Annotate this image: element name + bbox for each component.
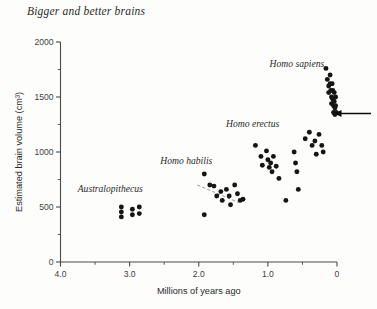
data-point [227, 194, 232, 199]
y-tick-label: 1000 [34, 147, 53, 157]
data-point [310, 143, 315, 148]
data-point [232, 183, 237, 188]
pointer-arrow-layer [334, 110, 371, 117]
data-point [293, 161, 298, 166]
data-point [312, 139, 317, 144]
habilis-trend-line [197, 185, 238, 203]
data-point [253, 143, 258, 148]
x-tick-label: 0 [335, 269, 340, 279]
y-axis-title: Estimated brain volume (cm³) [14, 92, 24, 212]
data-point [241, 197, 246, 202]
species-label-homo-habilis: Homo habilis [159, 155, 212, 166]
data-point [202, 212, 207, 217]
data-point [292, 150, 297, 155]
species-label-homo-sapiens: Homo sapiens [269, 58, 325, 69]
x-axis-title: Millions of years ago [157, 286, 241, 296]
figure-container: Bigger and better brains 050010001500200… [0, 0, 377, 309]
data-point [330, 81, 335, 86]
data-point [212, 184, 217, 189]
data-point [224, 187, 229, 192]
data-point [271, 154, 276, 159]
data-point [267, 165, 272, 170]
data-point [119, 205, 124, 210]
data-point [276, 176, 281, 181]
data-point [119, 214, 124, 219]
species-label-australopithecus: Australopithecus [77, 183, 143, 194]
data-point [303, 136, 308, 141]
data-point [235, 191, 240, 196]
data-point [202, 172, 207, 177]
series-australopithecus [119, 205, 142, 220]
axes-layer: 05001000150020004.03.02.01.00Millions of… [14, 37, 340, 296]
series-homo-erectus [253, 130, 326, 203]
data-point [333, 95, 338, 100]
data-point [332, 90, 337, 95]
data-point [214, 194, 219, 199]
data-point [130, 207, 135, 212]
data-point [321, 150, 326, 155]
species-labels-layer: AustralopithecusHomo habilisHomo erectus… [77, 58, 325, 193]
data-point [296, 187, 301, 192]
data-point [207, 183, 212, 188]
data-point [319, 143, 324, 148]
data-point [294, 169, 299, 174]
data-point [307, 130, 312, 135]
data-point [314, 152, 319, 157]
y-tick-label: 0 [49, 257, 54, 267]
y-tick-label: 1500 [34, 92, 53, 102]
x-tick-label: 2.0 [193, 269, 205, 279]
series-homo-sapiens [323, 66, 338, 117]
data-point [137, 211, 142, 216]
species-label-homo-erectus: Homo erectus [225, 118, 279, 129]
data-point [325, 77, 330, 82]
data-point [317, 132, 322, 137]
data-point [283, 198, 288, 203]
data-point [268, 161, 273, 166]
x-tick-label: 1.0 [262, 269, 274, 279]
y-tick-label: 2000 [34, 37, 53, 47]
data-point [332, 99, 337, 104]
data-point [333, 103, 338, 108]
data-point [274, 164, 279, 169]
data-point [264, 148, 269, 153]
data-point [259, 154, 264, 159]
data-points-layer [119, 66, 339, 219]
data-point [119, 210, 124, 215]
data-point [328, 73, 333, 78]
data-point [260, 163, 265, 168]
data-point [228, 202, 233, 207]
data-point [270, 169, 275, 174]
data-point [130, 212, 135, 217]
data-point [218, 189, 223, 194]
y-tick-label: 500 [39, 202, 54, 212]
x-tick-label: 3.0 [124, 269, 136, 279]
scatter-plot: 05001000150020004.03.02.01.00Millions of… [0, 0, 377, 309]
trend-line-layer [197, 185, 238, 203]
data-point [137, 205, 142, 210]
series-homo-habilis [202, 172, 246, 218]
x-tick-label: 4.0 [55, 269, 67, 279]
data-point [220, 198, 225, 203]
